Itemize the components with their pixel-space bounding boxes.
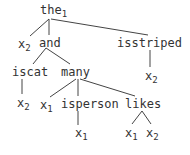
edge-likes-x1	[132, 111, 142, 124]
edge-the-x2	[30, 19, 49, 36]
node-iscat: iscat	[12, 66, 48, 78]
edge-many-likes	[80, 79, 135, 96]
node-likes-x2: x2	[146, 127, 159, 139]
node-many: many	[61, 66, 90, 78]
edge-and-iscat	[33, 48, 46, 64]
node-x2: x2	[18, 38, 31, 50]
node-and: and	[39, 37, 61, 49]
node-isperson: isperson	[61, 98, 119, 110]
node-the: the1	[40, 4, 67, 16]
edge-and-many	[46, 48, 70, 64]
node-isstriped-x2: x2	[145, 70, 158, 82]
node-isperson-x1: x1	[75, 127, 88, 139]
edge-the-isstriped	[51, 19, 148, 35]
edge-many-x1	[50, 79, 76, 97]
edge-likes-x2	[142, 111, 151, 124]
node-iscat-x2: x2	[17, 97, 30, 109]
node-likes: likes	[125, 98, 161, 110]
node-isstriped: isstriped	[117, 37, 182, 49]
node-many-x1: x1	[40, 99, 53, 111]
node-likes-x1: x1	[125, 127, 138, 139]
